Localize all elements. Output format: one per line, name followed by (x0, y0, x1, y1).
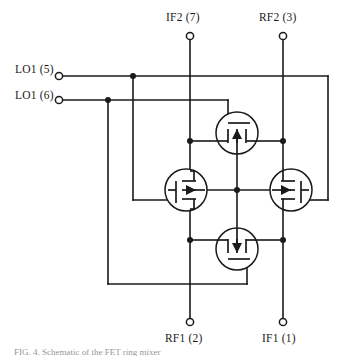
mosfet-right (270, 169, 312, 211)
mosfet-top (216, 112, 258, 154)
mosfet-left (165, 169, 207, 211)
port-label-lo1-pin6: LO1 (6) (15, 89, 54, 101)
terminal-lo1-pin6[interactable] (55, 96, 62, 103)
port-label-rf1: RF1 (2) (165, 332, 203, 344)
schematic-figure: IF2 (7) RF2 (3) RF1 (2) IF1 (1) LO1 (5) … (0, 0, 345, 356)
port-label-lo1-pin5: LO1 (5) (15, 63, 54, 75)
mosfet-bottom (216, 228, 258, 270)
port-label-if2: IF2 (7) (166, 11, 200, 23)
figure-caption: FIG. 4. Schematic of the FET ring mixer (14, 347, 161, 356)
terminal-if2[interactable] (186, 32, 193, 39)
junction-dots (105, 73, 286, 243)
circuit-diagram-canvas (0, 0, 345, 356)
terminal-lo1-pin5[interactable] (55, 72, 62, 79)
port-label-rf2: RF2 (3) (259, 11, 297, 23)
terminal-rf1[interactable] (186, 318, 193, 325)
terminal-if1[interactable] (279, 318, 286, 325)
terminal-rf2[interactable] (279, 32, 286, 39)
port-label-if1: IF1 (1) (262, 332, 296, 344)
